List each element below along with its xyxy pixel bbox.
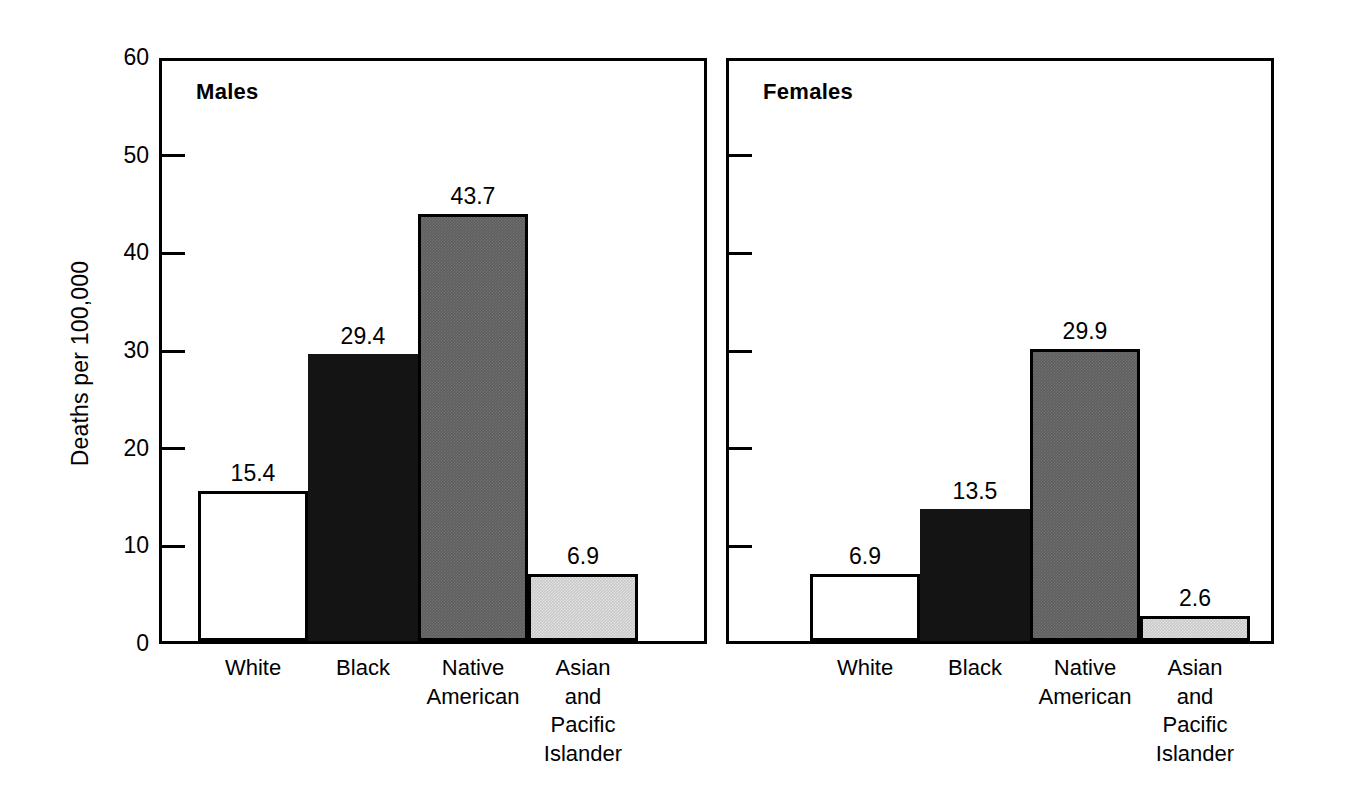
y-axis-tick-label-30: 30: [97, 339, 149, 362]
y-axis-tick-30: [726, 350, 752, 353]
bar-value-label: 6.9: [567, 545, 599, 568]
y-axis-tick-20: [726, 447, 752, 450]
y-axis-tick-10: [159, 545, 185, 548]
bar-males-3[interactable]: 6.9: [528, 574, 638, 641]
bar-value-label: 29.4: [341, 325, 386, 348]
y-axis-tick-10: [726, 545, 752, 548]
plot-area-males: 15.429.443.76.9: [162, 61, 704, 641]
bar-value-label: 15.4: [231, 462, 276, 485]
bar-females-3[interactable]: 2.6: [1140, 616, 1250, 641]
bar-females-2[interactable]: 29.9: [1030, 349, 1140, 641]
y-axis-tick-50: [726, 154, 752, 157]
y-axis-tick-label-10: 10: [97, 534, 149, 557]
y-axis-tick-40: [726, 252, 752, 255]
bar-males-0[interactable]: 15.4: [198, 491, 308, 641]
bar-rect: [308, 354, 418, 641]
figure-container: Deaths per 100,000 Males 15.429.443.76.9…: [0, 0, 1358, 788]
bar-females-1[interactable]: 13.5: [920, 509, 1030, 641]
bar-rect: [1030, 349, 1140, 641]
y-axis-tick-20: [159, 447, 185, 450]
bar-males-1[interactable]: 29.4: [308, 354, 418, 641]
panel-males: Males 15.429.443.76.9: [159, 58, 707, 644]
x-axis-category-label: Asian and Pacific Islander: [503, 654, 663, 768]
bar-value-label: 2.6: [1179, 587, 1211, 610]
bar-rect: [920, 509, 1030, 641]
bar-value-label: 13.5: [953, 480, 998, 503]
bar-rect: [1140, 616, 1250, 641]
bar-rect: [418, 214, 528, 641]
bar-rect: [810, 574, 920, 641]
y-axis-tick-50: [159, 154, 185, 157]
plot-area-females: 6.913.529.92.6: [729, 61, 1271, 641]
y-axis-tick-40: [159, 252, 185, 255]
bar-males-2[interactable]: 43.7: [418, 214, 528, 641]
y-axis-tick-label-60: 60: [97, 46, 149, 69]
y-axis-tick-label-20: 20: [97, 437, 149, 460]
y-axis-title: Deaths per 100,000: [67, 184, 94, 544]
x-axis-category-label: Asian and Pacific Islander: [1115, 654, 1275, 768]
y-axis-tick-label-40: 40: [97, 241, 149, 264]
bar-rect: [198, 491, 308, 641]
bar-females-0[interactable]: 6.9: [810, 574, 920, 641]
y-axis-tick-label-0: 0: [97, 632, 149, 655]
panel-females: Females 6.913.529.92.6: [726, 58, 1274, 644]
bar-value-label: 29.9: [1063, 320, 1108, 343]
bar-value-label: 43.7: [451, 185, 496, 208]
bar-rect: [528, 574, 638, 641]
y-axis-tick-30: [159, 350, 185, 353]
bar-value-label: 6.9: [849, 545, 881, 568]
y-axis-tick-label-50: 50: [97, 144, 149, 167]
